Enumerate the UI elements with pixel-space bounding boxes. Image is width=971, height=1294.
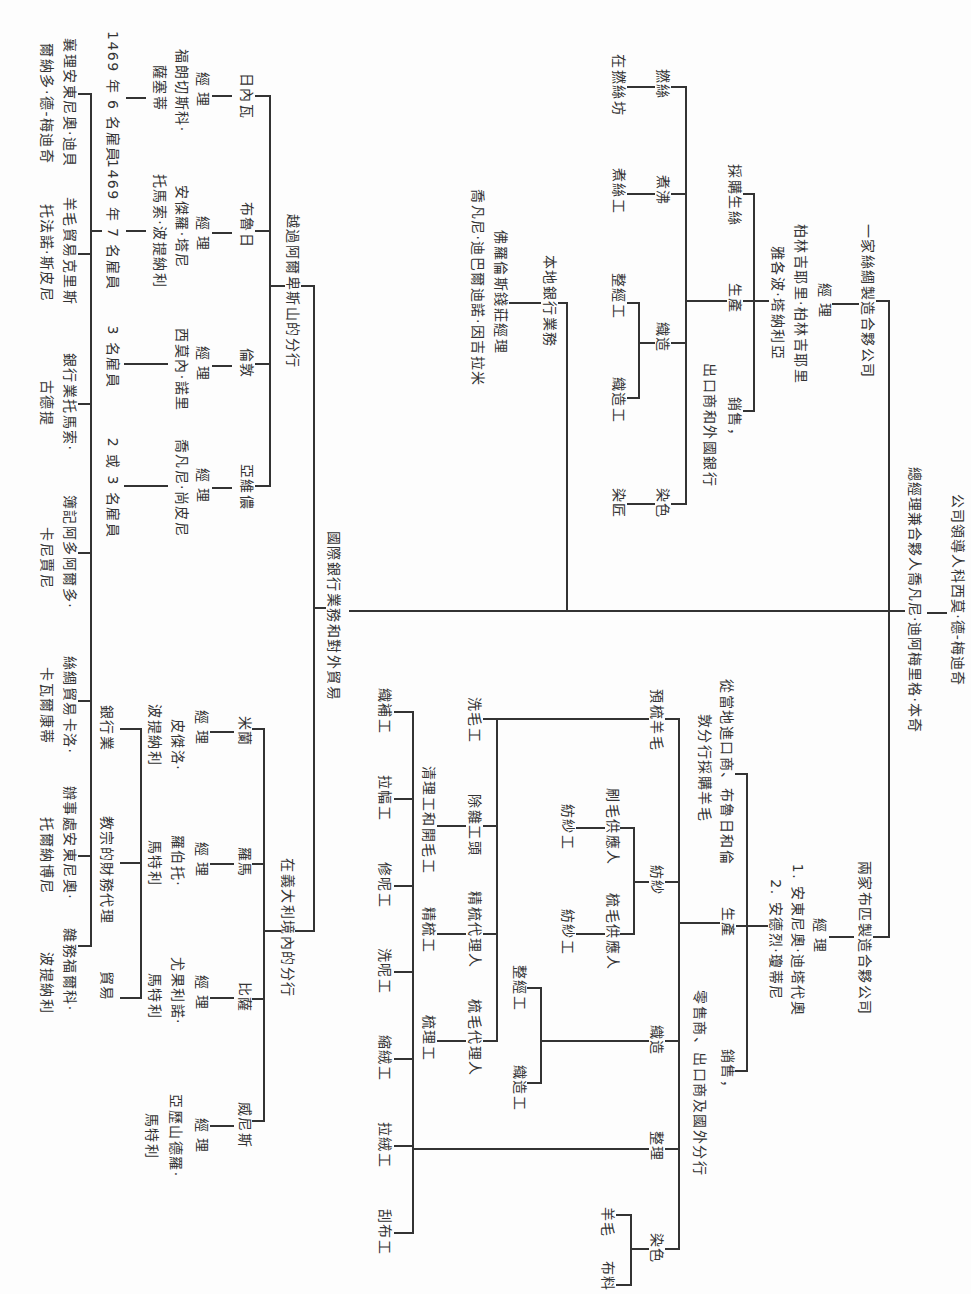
wool-sales-detail: 零售商、出口商及國外分行 [692,990,708,1176]
staff-member: 襄理安東尼奧·迪貝 [62,38,78,168]
silk-sales: 銷售， [727,397,743,444]
local-banking-line [567,302,569,610]
manager-name: 托馬索·波提納利 [152,174,168,288]
wool-sales: 銷售， [720,1049,736,1096]
connector-line [665,1148,680,1150]
connector-line [665,718,680,720]
staff-count: 1469 年 6 名雇員 [105,31,121,163]
staff-member: 卡尼賈尼 [39,527,55,589]
dyeing-target: 布料 [600,1261,616,1292]
connector-line [255,95,271,97]
finishing-worker: 拉幅工 [377,775,393,822]
staff-member: 爾納多·德-梅迪奇 [39,43,55,164]
connector-line [210,731,234,733]
connector-line [120,997,142,999]
connector-line [527,987,542,989]
silk-sales-detail: 出口商和外國銀行 [702,363,718,487]
branch-milan: 米蘭 [237,716,253,747]
branch-activity: 貿易 [99,971,115,1002]
connector-line [252,998,265,1000]
silk-worker: 在撚絲坊 [611,54,627,116]
connector-line [252,728,265,730]
connector-line [212,232,232,234]
manager-name: 馬特利 [147,840,163,887]
connector-line [483,933,498,935]
staff-member: 雜務福爾科· [62,928,78,1011]
international-banking-title: 國際銀行業務和對外貿易 [326,531,342,702]
finishing-worker: 織補工 [377,688,393,735]
silk-purchase: 採購生絲 [727,164,743,226]
staff-member: 羊毛貿易克里斯 [62,197,78,306]
connector-line [437,825,466,827]
connector-line [255,230,271,232]
finishing-worker: 修呢工 [377,862,393,909]
manager-label: 經理 [194,710,210,750]
manager-name: 西莫內·諾里 [174,328,190,411]
connector-line [126,97,146,99]
wool-sub-role: 精梳代理人 [467,891,483,969]
staff-bus [91,93,93,945]
connector-line [927,612,947,614]
wool-manager-name: 1. 安東尼奧·迪塔代奧 [790,864,806,1016]
connector-line [210,863,234,865]
italy-branches-title: 在義大利境內的分行 [280,858,296,998]
wool-sub-role: 洗毛工 [467,697,483,744]
connector-line [498,718,649,720]
manager-name: 馬特利 [144,1113,160,1160]
wool-step-spinning: 紡紗 [649,865,665,896]
wool-purchase: 敦分行採購羊毛 [697,714,713,823]
connector-line [558,302,568,304]
wool-step-preparing: 預梳羊毛 [649,689,665,751]
connector-line [92,230,102,232]
connector-line [671,503,687,505]
connector-line [876,300,890,302]
silk-step-weaving: 織造 [655,322,671,353]
connector-line [78,93,92,95]
connector-line [252,1120,265,1122]
local-banking-manager-title: 佛羅倫斯錢莊經理 [493,230,509,354]
staff-member: 銀行業托馬索· [62,353,78,452]
connector-line [301,285,315,287]
manager-name: 羅伯托· [170,835,186,887]
manager-name: 亞歷山德羅· [168,1094,184,1177]
silk-worker: 染匠 [611,488,627,519]
connector-line [78,403,92,405]
wool-step-finishing: 整理 [649,1131,665,1162]
connector-line [671,86,687,88]
wool-sub-role: 除雜工頭 [467,794,483,856]
connector-line [665,1248,680,1250]
connector-line [743,193,755,195]
wool-worker: 紡紗工 [560,804,576,851]
local-banking-title: 本地銀行業務 [542,255,558,348]
silk-step-twisting: 撚絲 [655,69,671,100]
manager-label: 經理 [195,216,211,256]
connector-line [542,1040,649,1042]
manufacturing-bus-line [889,300,891,936]
wool-production-bus [679,718,681,1248]
connector-line [78,700,92,702]
manager-label: 經理 [195,468,211,508]
wool-worker: 梳理工 [421,1015,437,1062]
silk-worker: 織造工 [611,377,627,424]
staff-member: 辦事處安東尼奧· [62,786,78,900]
wool-worker: 整經工 [512,965,528,1012]
connector-line [394,798,414,800]
main-spine-line [349,610,905,612]
silk-manager-name: 柏林吉耶里·柏林吉耶里 [793,224,809,385]
connector-line [212,95,232,97]
manager-name: 馬特利 [147,973,163,1020]
local-banking-manager-name: 喬凡尼·迪巴爾迪諾·因吉拉米 [470,189,486,387]
connector-line [394,1232,414,1234]
connector-line [394,711,414,713]
connector-line [616,1284,632,1286]
connector-line [627,397,640,399]
connector-line [832,303,859,305]
staff-count: 2 或 3 名雇員 [105,438,121,539]
staff-member: 簿記阿多阿爾多· [62,495,78,609]
finishing-worker: 刮布工 [377,1209,393,1256]
connector-line [295,930,315,932]
connector-line [634,827,636,933]
staff-count: 3 名雇員 [105,326,121,389]
org-chart: 公司領導人科西莫·德-梅迪奇 總經理兼合夥人喬凡尼·迪阿梅里格·本奇 一家絲綢製… [0,0,971,1294]
manager-name: 尤果利諾· [170,957,186,1025]
